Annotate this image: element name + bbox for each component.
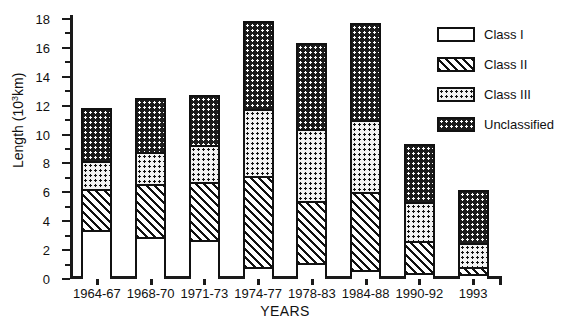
bar-segment-class-iii — [298, 129, 325, 201]
plot-area — [70, 17, 500, 277]
bar-segment-class-ii — [352, 192, 379, 270]
bar-segment-class-ii — [137, 184, 164, 237]
bar-segment-unclassified — [245, 23, 272, 108]
bar-segment-class-i — [191, 240, 218, 279]
chart-legend: Class IClass IIClass IIIUnclassified — [437, 26, 561, 146]
bar-segment-class-i — [406, 273, 433, 279]
y-tick-label-2: 2 — [0, 244, 50, 257]
legend-label: Class II — [484, 58, 527, 71]
bar-1971-73 — [189, 95, 220, 277]
stacked-bar-chart: 024681012141618 Length (103km) 1964-6719… — [0, 0, 561, 321]
bar-segment-class-iii — [460, 243, 487, 267]
x-tick-label-1978-83: 1978-83 — [282, 287, 342, 301]
legend-item-unclassified: Unclassified — [437, 116, 561, 133]
x-tick-label-1984-88: 1984-88 — [336, 287, 396, 301]
bar-1974-77 — [243, 21, 274, 277]
bar-segment-class-iii — [191, 145, 218, 183]
bar-segment-class-i — [460, 274, 487, 279]
y-tick-label-4: 4 — [0, 215, 50, 228]
bar-1990-92 — [404, 144, 435, 277]
y-axis-title-base: Length (10 — [10, 101, 26, 168]
x-axis-endcap — [499, 276, 502, 285]
bar-segment-class-ii — [191, 182, 218, 240]
x-tick-label-1964-67: 1964-67 — [67, 287, 127, 301]
bar-1978-83 — [296, 43, 327, 277]
y-axis-title: Length (103km) — [10, 30, 27, 210]
x-tick-label-1968-70: 1968-70 — [121, 287, 181, 301]
bar-segment-unclassified — [137, 100, 164, 152]
y-tick-label-18: 18 — [0, 13, 50, 26]
bar-segment-class-ii — [298, 201, 325, 263]
x-tick-label-1974-77: 1974-77 — [228, 287, 288, 301]
legend-label: Unclassified — [484, 118, 554, 131]
bar-segment-class-i — [137, 237, 164, 279]
bar-segment-class-ii — [406, 241, 433, 273]
bar-1964-67 — [81, 108, 112, 277]
legend-swatch-icon — [437, 57, 475, 72]
bar-segment-unclassified — [83, 110, 110, 161]
x-axis-title: YEARS — [70, 303, 500, 319]
y-axis-title-tail: km) — [10, 73, 26, 96]
x-tick-label-1993: 1993 — [443, 287, 503, 301]
bar-1984-88 — [350, 23, 381, 277]
legend-item-class-ii: Class II — [437, 56, 561, 73]
bar-segment-class-i — [298, 263, 325, 279]
bar-segment-class-i — [83, 230, 110, 279]
bar-segment-class-iii — [352, 120, 379, 192]
y-axis-title-exponent: 3 — [10, 96, 20, 101]
bar-segment-unclassified — [460, 192, 487, 243]
bar-1993 — [458, 190, 489, 277]
bar-segment-class-i — [245, 267, 272, 279]
bar-segment-class-i — [352, 270, 379, 279]
legend-item-class-iii: Class III — [437, 86, 561, 103]
bar-segment-unclassified — [352, 25, 379, 120]
bar-segment-unclassified — [191, 97, 218, 145]
x-tick-label-1971-73: 1971-73 — [174, 287, 234, 301]
bar-segment-class-iii — [137, 152, 164, 184]
legend-swatch-icon — [437, 87, 475, 102]
bar-segment-class-iii — [83, 161, 110, 190]
legend-item-class-i: Class I — [437, 26, 561, 43]
x-tick-label-1990-92: 1990-92 — [389, 287, 449, 301]
bar-segment-unclassified — [298, 45, 325, 129]
legend-label: Class III — [484, 88, 531, 101]
legend-swatch-icon — [437, 27, 475, 42]
bar-segment-class-iii — [406, 202, 433, 241]
bar-segment-unclassified — [406, 146, 433, 202]
bar-segment-class-ii — [245, 176, 272, 267]
bar-segment-class-iii — [245, 109, 272, 177]
bar-1968-70 — [135, 98, 166, 277]
bar-segment-class-ii — [83, 189, 110, 229]
y-tick-label-0: 0 — [0, 273, 50, 286]
bar-segment-class-ii — [460, 267, 487, 274]
legend-label: Class I — [484, 28, 524, 41]
legend-swatch-icon — [437, 117, 475, 132]
